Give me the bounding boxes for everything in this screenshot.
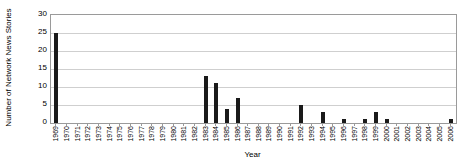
bar-slot bbox=[147, 15, 158, 123]
x-axis-tick-label: 2006 bbox=[439, 126, 461, 148]
y-axis-tick-label: 15 bbox=[38, 64, 47, 72]
bar-slot bbox=[349, 15, 360, 123]
bar-slot bbox=[83, 15, 94, 123]
bar bbox=[214, 83, 218, 123]
bar-slot bbox=[51, 15, 62, 123]
bar-slot bbox=[317, 15, 328, 123]
bar-slot bbox=[254, 15, 265, 123]
plot-area bbox=[50, 14, 457, 124]
bar-slot bbox=[115, 15, 126, 123]
bar-slot bbox=[381, 15, 392, 123]
bar-slot bbox=[243, 15, 254, 123]
bar-slot bbox=[158, 15, 169, 123]
bar-slot bbox=[168, 15, 179, 123]
bar-slot bbox=[371, 15, 382, 123]
bar-slot bbox=[264, 15, 275, 123]
bar-slot bbox=[339, 15, 350, 123]
bar-slot bbox=[222, 15, 233, 123]
bar bbox=[225, 109, 229, 123]
bar-slot bbox=[435, 15, 446, 123]
bar-slot bbox=[179, 15, 190, 123]
bar bbox=[374, 112, 378, 123]
x-axis-tick-labels: 1969197019711972197319741975197619771978… bbox=[50, 126, 455, 148]
bar-slot bbox=[275, 15, 286, 123]
bars-layer bbox=[51, 15, 456, 123]
bar-slot bbox=[136, 15, 147, 123]
bar-slot bbox=[403, 15, 414, 123]
x-axis-title: Year bbox=[50, 150, 455, 159]
y-axis-tick-label: 30 bbox=[38, 10, 47, 18]
y-axis-tick-label: 10 bbox=[38, 82, 47, 90]
bar-chart: Number of Network News Stories 302520151… bbox=[0, 0, 474, 165]
bar-slot bbox=[232, 15, 243, 123]
bar-slot bbox=[72, 15, 83, 123]
y-axis-tick-label: 20 bbox=[38, 46, 47, 54]
bar-slot bbox=[94, 15, 105, 123]
bar-slot bbox=[413, 15, 424, 123]
y-axis-title: Number of Network News Stories bbox=[0, 6, 16, 128]
y-axis-tick-labels: 302520151050 bbox=[16, 8, 50, 124]
y-axis-title-label: Number of Network News Stories bbox=[4, 8, 13, 126]
bar-slot bbox=[190, 15, 201, 123]
bar bbox=[236, 98, 240, 123]
bar-slot bbox=[126, 15, 137, 123]
bar bbox=[321, 112, 325, 123]
x-axis-tick-label-text: 2006 bbox=[446, 126, 453, 142]
bar-slot bbox=[62, 15, 73, 123]
y-axis-tick-label: 5 bbox=[43, 100, 47, 108]
bar-slot bbox=[445, 15, 456, 123]
y-axis-tick-label: 25 bbox=[38, 28, 47, 36]
bar bbox=[299, 105, 303, 123]
bar-slot bbox=[200, 15, 211, 123]
bar-slot bbox=[392, 15, 403, 123]
bar-slot bbox=[211, 15, 222, 123]
bar-slot bbox=[104, 15, 115, 123]
bar-slot bbox=[360, 15, 371, 123]
bar-slot bbox=[285, 15, 296, 123]
bar-slot bbox=[424, 15, 435, 123]
y-axis-tick-label: 0 bbox=[43, 118, 47, 126]
bar bbox=[54, 33, 58, 123]
bar-slot bbox=[296, 15, 307, 123]
bar-slot bbox=[328, 15, 339, 123]
bar bbox=[204, 76, 208, 123]
bar-slot bbox=[307, 15, 318, 123]
